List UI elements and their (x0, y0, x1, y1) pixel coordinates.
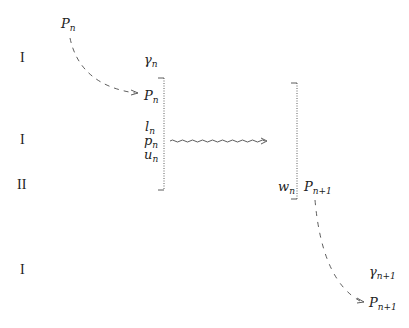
diagram-lines (0, 0, 409, 328)
dashed-arrow-2 (315, 200, 360, 301)
wavy-arrow (170, 140, 265, 142)
diagram-canvas: I I II I Pn γn Pn ln pn un wn Pn+1 γn+1 … (0, 0, 409, 328)
arrowhead-wavy (261, 138, 267, 144)
arrowhead-1 (131, 90, 138, 95)
dashed-arrow-1 (70, 38, 135, 93)
arrowhead-2 (357, 298, 364, 303)
